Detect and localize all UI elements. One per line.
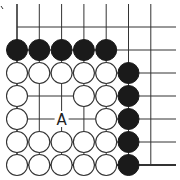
white-stone bbox=[7, 63, 28, 84]
corner-mark bbox=[1, 6, 3, 9]
white-stone bbox=[73, 132, 94, 153]
white-stone bbox=[73, 86, 94, 107]
black-stone bbox=[51, 40, 72, 61]
black-stone bbox=[29, 40, 50, 61]
white-stone bbox=[7, 86, 28, 107]
black-stone bbox=[73, 40, 94, 61]
white-stone bbox=[7, 109, 28, 130]
white-stone bbox=[7, 155, 28, 176]
black-stone bbox=[96, 40, 117, 61]
stones-layer bbox=[7, 40, 140, 176]
white-stone bbox=[29, 63, 50, 84]
white-stone bbox=[96, 63, 117, 84]
white-stone bbox=[29, 132, 50, 153]
white-stone bbox=[96, 109, 117, 130]
white-stone bbox=[51, 155, 72, 176]
white-stone bbox=[96, 132, 117, 153]
go-board: A bbox=[0, 0, 180, 180]
black-stone bbox=[118, 109, 139, 130]
white-stone bbox=[96, 155, 117, 176]
black-stone bbox=[7, 40, 28, 61]
white-stone bbox=[29, 155, 50, 176]
white-stone bbox=[73, 155, 94, 176]
point-label-a: A bbox=[56, 111, 67, 129]
white-stone bbox=[51, 132, 72, 153]
black-stone bbox=[118, 63, 139, 84]
black-stone bbox=[118, 86, 139, 107]
black-stone bbox=[118, 155, 139, 176]
white-stone bbox=[96, 86, 117, 107]
labels-layer: A bbox=[55, 111, 69, 129]
white-stone bbox=[73, 63, 94, 84]
white-stone bbox=[7, 132, 28, 153]
black-stone bbox=[118, 132, 139, 153]
white-stone bbox=[51, 63, 72, 84]
